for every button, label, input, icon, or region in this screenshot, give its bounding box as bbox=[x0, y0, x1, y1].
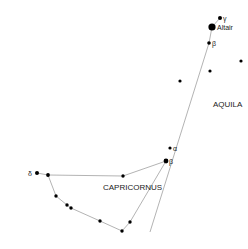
star-aql-2 bbox=[208, 69, 211, 72]
constellation-name-capricornus: CAPRICORNUS bbox=[103, 183, 162, 192]
constellation-lines bbox=[37, 18, 220, 232]
star-label-beta-cap: β bbox=[169, 158, 173, 166]
star-cap-6 bbox=[98, 219, 101, 222]
constellation-line bbox=[150, 27, 212, 232]
star-gamma-aql bbox=[218, 16, 222, 20]
star-label-alpha-cap: α bbox=[173, 145, 177, 152]
stars bbox=[35, 16, 243, 233]
star-cap-2 bbox=[121, 174, 124, 177]
constellation-name-aquila: AQUILA bbox=[213, 100, 243, 109]
star-cap-3 bbox=[54, 194, 57, 197]
star-cap-1 bbox=[46, 173, 50, 177]
star-beta-aql bbox=[207, 41, 211, 45]
star-cap-7 bbox=[120, 229, 123, 232]
star-alpha-cap bbox=[168, 146, 171, 149]
star-cap-5 bbox=[69, 206, 72, 209]
constellation-line bbox=[37, 161, 166, 176]
star-aql-1 bbox=[239, 59, 242, 62]
star-label-delta-cap: δ bbox=[28, 170, 32, 177]
labels: γAltairβαβδAQUILACAPRICORNUS bbox=[28, 15, 243, 192]
star-cap-8 bbox=[128, 220, 131, 223]
star-label-gamma-aql: γ bbox=[223, 15, 227, 23]
constellation-line bbox=[48, 161, 166, 231]
star-delta-cap bbox=[35, 171, 39, 175]
star-label-beta-aql: β bbox=[212, 40, 216, 48]
star-label-altair: Altair bbox=[217, 24, 234, 31]
star-beta-cap bbox=[164, 159, 169, 164]
star-chart: γAltairβαβδAQUILACAPRICORNUS bbox=[0, 0, 248, 249]
star-cap-4 bbox=[65, 203, 68, 206]
star-altair bbox=[208, 23, 215, 30]
star-aql-3 bbox=[178, 79, 181, 82]
